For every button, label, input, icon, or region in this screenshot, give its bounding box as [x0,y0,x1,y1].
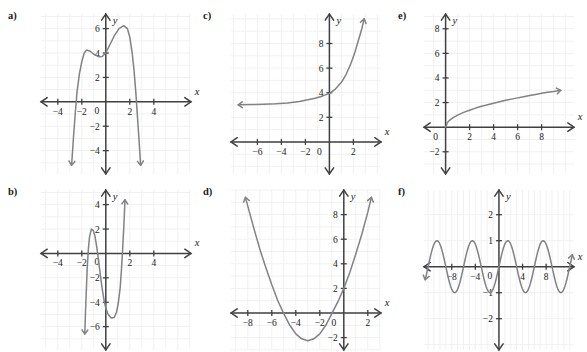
svg-text:4: 4 [95,200,100,210]
svg-text:2: 2 [488,210,493,220]
origin-label: 0 [488,271,493,281]
svg-text:4: 4 [151,258,156,268]
y-axis-label: y [112,15,118,26]
panel-label-e: e) [398,10,406,21]
panel-label-d: d) [203,186,212,197]
svg-text:4: 4 [151,107,156,117]
y-axis-label: y [505,191,511,202]
panel-label-f: f) [398,186,405,197]
svg-text:−2: −2 [77,258,87,268]
origin-label: 0 [433,132,438,142]
svg-text:−4: −4 [53,107,63,117]
svg-text:−6: −6 [267,318,277,328]
svg-text:−2: −2 [77,107,87,117]
curve-path-e [446,90,561,127]
svg-text:−4: −4 [53,258,63,268]
svg-text:8: 8 [539,132,544,142]
svg-text:−2: −2 [315,318,325,328]
graph-a: −4−224−4−22460xy [35,8,209,186]
curve-path-d [245,197,371,340]
svg-text:2: 2 [467,132,472,142]
panel-d: d) −8−6−4−22−224680xy [195,176,390,352]
graph-b: −4−224−6−4−2240xy [35,184,209,352]
grid-lines [424,14,574,174]
graph-f: −8−448−2−1120xy [418,184,587,352]
svg-text:6: 6 [319,64,324,74]
tick-labels: −8−6−4−22−224680 [243,210,371,343]
svg-text:−4: −4 [276,147,286,157]
svg-text:−4: −4 [90,146,100,156]
grid-lines [231,190,381,350]
svg-text:2: 2 [319,113,324,123]
svg-text:2: 2 [351,147,356,157]
panel-e: e) 2468−224680xy [390,0,580,176]
panel-a: a) −4−224−4−22460xy [0,0,195,176]
svg-text:−2: −2 [429,147,439,157]
y-axis-label: y [350,191,356,202]
svg-text:2: 2 [127,258,132,268]
svg-text:2: 2 [365,318,370,328]
origin-label: 0 [94,106,99,116]
svg-text:4: 4 [333,259,338,269]
svg-text:−2: −2 [300,147,310,157]
svg-text:8: 8 [435,24,440,34]
graph-d: −8−6−4−22−224680xy [225,184,399,352]
svg-text:−6: −6 [252,147,262,157]
x-axis-label: x [577,111,583,122]
grid-lines [41,190,191,350]
svg-text:−2: −2 [328,333,338,343]
origin-label: 0 [317,147,322,157]
y-axis-label: y [335,15,341,26]
svg-text:−4: −4 [470,272,480,282]
svg-text:2: 2 [333,284,338,294]
origin-label: 0 [331,318,336,328]
x-axis-label: x [384,297,390,308]
axes [41,190,191,350]
grid-lines [41,14,191,174]
svg-text:1: 1 [488,236,493,246]
svg-text:2: 2 [435,98,440,108]
svg-text:−4: −4 [90,298,100,308]
x-axis-label: x [577,251,583,262]
graph-e: 2468−224680xy [418,8,587,186]
svg-text:6: 6 [515,132,520,142]
tick-labels: −4−224−6−4−2240 [53,200,157,332]
svg-text:2: 2 [127,107,132,117]
svg-text:6: 6 [95,24,100,34]
graph-c: −6−4−2224680xy [225,8,399,186]
panel-c: c) −6−4−2224680xy [195,0,390,176]
svg-text:6: 6 [435,49,440,59]
panel-label-b: b) [8,186,17,197]
svg-text:−8: −8 [243,318,253,328]
svg-text:6: 6 [333,235,338,245]
x-axis-label: x [384,126,390,137]
svg-text:2: 2 [95,73,100,83]
panel-label-c: c) [203,10,211,21]
svg-text:8: 8 [333,210,338,220]
panel-f: f) −8−448−2−1120xy [390,176,580,352]
axes [41,14,191,174]
svg-text:−2: −2 [90,273,100,283]
svg-text:−6: −6 [90,322,100,332]
tick-labels: −6−4−2224680 [252,39,356,157]
y-axis-label: y [112,191,118,202]
curve-path-b [85,200,125,334]
svg-text:4: 4 [435,73,440,83]
svg-text:−2: −2 [483,314,493,324]
svg-text:8: 8 [319,39,324,49]
svg-text:4: 4 [491,132,496,142]
y-axis-label: y [452,15,458,26]
svg-text:4: 4 [520,272,525,282]
axes [424,14,574,174]
panel-b: b) −4−224−6−4−2240xy [0,176,195,352]
svg-text:2: 2 [95,225,100,235]
panel-label-a: a) [8,10,17,21]
axes [231,190,381,350]
svg-text:−4: −4 [291,318,301,328]
svg-text:−2: −2 [90,122,100,132]
svg-text:8: 8 [544,272,549,282]
